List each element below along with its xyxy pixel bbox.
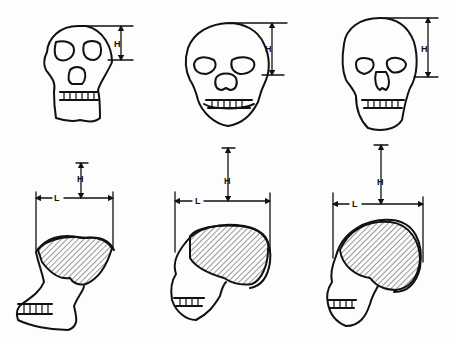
side-height-label-1: H — [77, 174, 84, 184]
front-height-measure-1 — [86, 26, 133, 60]
front-skull-1 — [44, 26, 112, 121]
side-height-label-2: H — [224, 176, 231, 186]
diagram-canvas: H H H H L H L H L — [0, 0, 450, 343]
front-skull-3 — [343, 18, 417, 130]
skull-comparison-diagram: H H H H L H L H L — [0, 0, 450, 343]
side-skull-2 — [171, 225, 270, 320]
front-height-label-2: H — [265, 44, 272, 54]
front-height-label-1: H — [114, 39, 121, 49]
front-skull-2 — [186, 23, 269, 126]
front-height-measure-2 — [230, 23, 287, 75]
front-height-measure-3 — [382, 18, 438, 77]
side-length-label-3: L — [352, 199, 358, 209]
side-length-label-2: L — [195, 196, 201, 206]
side-skull-3 — [327, 220, 421, 326]
side-length-label-1: L — [54, 193, 60, 203]
front-height-label-3: H — [421, 44, 428, 54]
side-height-label-3: H — [377, 177, 384, 187]
side-skull-1 — [17, 236, 114, 330]
